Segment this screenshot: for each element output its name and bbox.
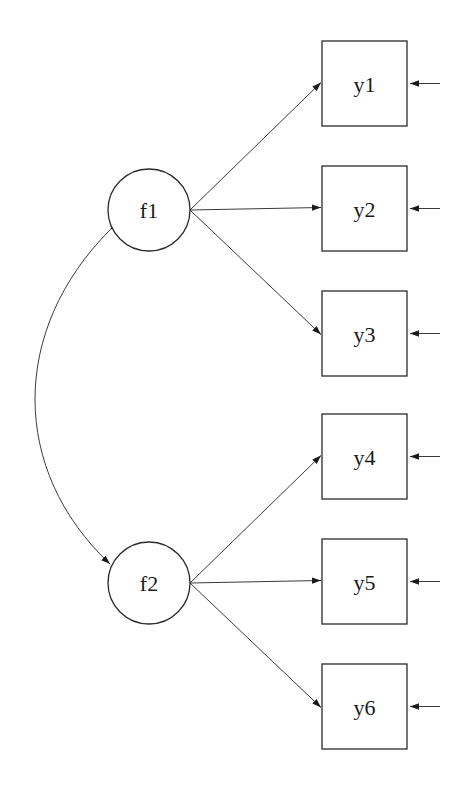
indicator-label: y3 <box>354 322 376 347</box>
cfa-path-diagram: f1f2 y1y2y3y4y5y6 <box>0 0 470 787</box>
observed-indicators: y1y2y3y4y5y6 <box>322 41 407 749</box>
factor-f1: f1 <box>108 169 190 251</box>
covariance-arc-f1-f2 <box>35 230 110 564</box>
factor-f2: f2 <box>108 542 190 624</box>
loading-arrow-f2-y6 <box>190 583 321 708</box>
loading-arrow-f1-y3 <box>190 210 321 335</box>
indicator-y1: y1 <box>322 41 407 126</box>
residual-arrows <box>410 84 440 707</box>
indicator-label: y4 <box>354 445 376 470</box>
indicator-label: y6 <box>354 695 376 720</box>
indicator-label: y2 <box>354 197 376 222</box>
indicator-y3: y3 <box>322 291 407 376</box>
indicator-label: y1 <box>354 72 376 97</box>
loading-arrow-f1-y2 <box>190 208 321 211</box>
factor-label: f1 <box>140 198 158 223</box>
indicator-y2: y2 <box>322 166 407 251</box>
loading-arrow-f2-y4 <box>190 456 321 584</box>
indicator-y6: y6 <box>322 664 407 749</box>
loading-arrow-f2-y5 <box>190 581 321 584</box>
factor-label: f2 <box>140 571 158 596</box>
loading-arrow-f1-y1 <box>190 83 321 211</box>
indicator-y4: y4 <box>322 414 407 499</box>
latent-factors: f1f2 <box>108 169 190 624</box>
indicator-label: y5 <box>354 570 376 595</box>
indicator-y5: y5 <box>322 539 407 624</box>
factor-loadings <box>190 83 321 708</box>
